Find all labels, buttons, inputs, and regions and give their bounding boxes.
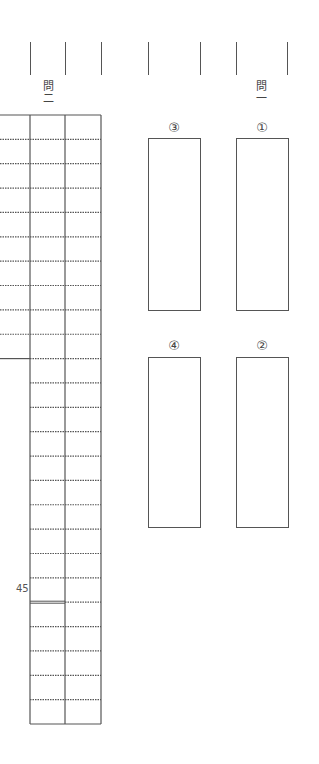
answer-box-label-1: ① (252, 120, 272, 135)
answer-box-1[interactable] (236, 138, 289, 311)
answer-box-4[interactable] (148, 357, 201, 528)
character-count-marker: 45 (16, 583, 29, 594)
answer-box-label-3: ③ (164, 120, 184, 135)
answer-box-label-2: ② (252, 338, 272, 353)
answer-box-2[interactable] (236, 357, 289, 528)
answer-box-label-4: ④ (164, 338, 184, 353)
answer-box-3[interactable] (148, 138, 201, 311)
